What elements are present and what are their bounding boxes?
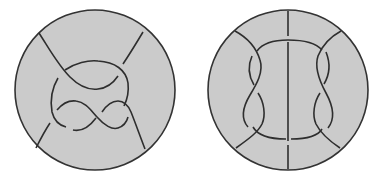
tangle-diagrams — [0, 0, 378, 181]
figure — [0, 0, 378, 181]
right-tangle-panel — [208, 10, 368, 170]
left-tangle-panel — [15, 10, 175, 170]
